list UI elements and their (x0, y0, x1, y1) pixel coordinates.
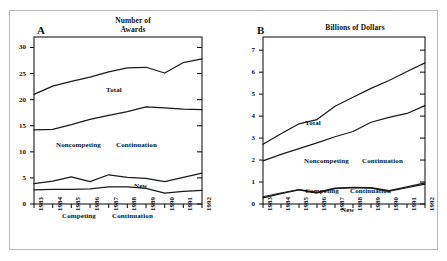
label-b-competing: Competing (305, 187, 339, 195)
ytick-label: 1 (239, 178, 255, 186)
xtick-label: 1988 (356, 197, 364, 211)
xtick-label: 1985 (74, 197, 82, 211)
figure-root: A Number of Awards B Billions of Dollars… (0, 0, 447, 261)
ytick-label: 5 (239, 90, 255, 98)
xtick-label: 1989 (149, 197, 157, 211)
xtick-label: 1989 (374, 197, 382, 211)
label-a-noncompeting-continuation: Continuation (116, 141, 157, 149)
xtick-label: 1986 (93, 197, 101, 211)
xtick-label: 1990 (392, 197, 400, 211)
xtick-label: 1985 (302, 197, 310, 211)
label-b-total: Total (305, 119, 321, 127)
label-a-competing-continuation: Continuation (112, 212, 153, 220)
xtick-label: 1991 (410, 197, 418, 211)
ytick-label: 3 (239, 134, 255, 142)
label-a-new: New (134, 182, 148, 190)
xtick-label: 1987 (112, 197, 120, 211)
ytick-label: 20 (10, 96, 26, 104)
xtick-label: 1984 (56, 197, 64, 211)
label-a-noncompeting: Noncompeting (56, 141, 101, 149)
ytick-label: 6 (239, 68, 255, 76)
xtick-label: 1987 (338, 197, 346, 211)
ytick-label: 10 (10, 148, 26, 156)
xtick-label: 1986 (320, 197, 328, 211)
ytick-label: 2 (239, 156, 255, 164)
ytick-label: 0 (239, 200, 255, 208)
xtick-label: 1983 (266, 197, 274, 211)
ytick-label: 30 (10, 43, 26, 51)
ytick-label: 0 (10, 200, 26, 208)
label-b-noncompeting: Noncompeting (304, 157, 349, 165)
xtick-label: 1992 (428, 197, 436, 211)
xtick-label: 1988 (130, 197, 138, 211)
xtick-label: 1990 (168, 197, 176, 211)
panel-b-plot (0, 0, 447, 261)
xtick-label: 1991 (186, 197, 194, 211)
ytick-label: 25 (10, 70, 26, 78)
ytick-label: 15 (10, 122, 26, 130)
ytick-label: 4 (239, 112, 255, 120)
label-a-total: Total (106, 86, 122, 94)
ytick-label: 5 (10, 174, 26, 182)
label-b-noncompeting-continuation: Continuation (362, 157, 403, 165)
xtick-label: 1983 (37, 197, 45, 211)
xtick-label: 1984 (284, 197, 292, 211)
label-b-competing-continuation: Continuation (350, 187, 391, 195)
label-a-competing: Competing (62, 212, 96, 220)
ytick-label: 7 (239, 46, 255, 54)
xtick-label: 1992 (205, 197, 213, 211)
